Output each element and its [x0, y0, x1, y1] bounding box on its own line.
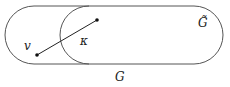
vertex-v-point: [35, 53, 39, 57]
label-g-tilde: G̃: [198, 15, 208, 30]
vertex-endpoint-point: [95, 18, 99, 22]
label-v: v: [24, 39, 31, 53]
label-g: G: [115, 70, 125, 84]
edge-segment: [37, 20, 97, 55]
label-kappa: κ: [79, 34, 88, 48]
diagram-canvas: v κ G̃ G: [0, 0, 230, 87]
